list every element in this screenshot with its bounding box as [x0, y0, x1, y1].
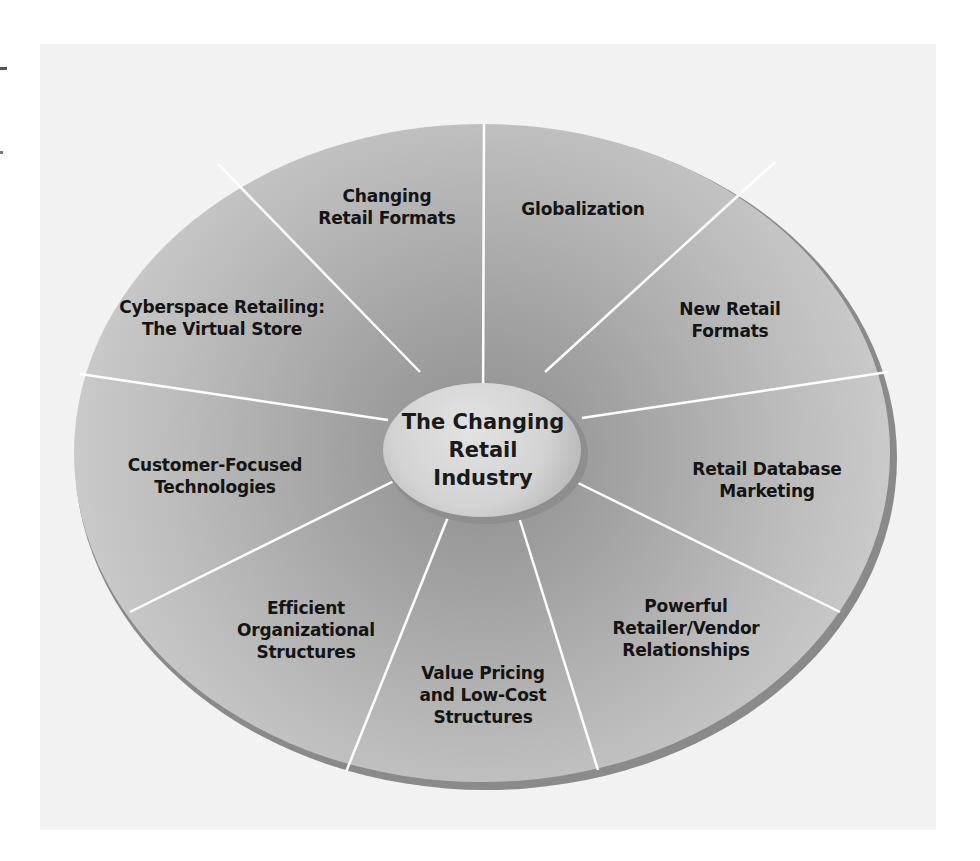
segment-customer-focused-technologies: Customer-Focused Technologies: [128, 454, 303, 498]
segment-changing-retail-formats: Changing Retail Formats: [318, 185, 455, 229]
center-title-line: Retail: [402, 436, 565, 464]
segment-label-line: New Retail: [679, 298, 780, 320]
segment-label-line: and Low-Cost: [420, 684, 547, 706]
segment-label-line: Technologies: [128, 476, 303, 498]
segment-label-line: Relationships: [612, 639, 759, 661]
segment-new-retail-formats: New Retail Formats: [679, 298, 780, 342]
segment-label-line: Globalization: [521, 198, 644, 220]
center-title: The Changing Retail Industry: [402, 408, 565, 492]
segment-powerful-retailer-vendor-relationships: Powerful Retailer/Vendor Relationships: [612, 595, 759, 661]
segment-value-pricing: Value Pricing and Low-Cost Structures: [420, 662, 547, 728]
segment-label-line: Retailer/Vendor: [612, 617, 759, 639]
center-title-line: Industry: [402, 464, 565, 492]
segment-label-line: Structures: [420, 706, 547, 728]
segment-retail-database-marketing: Retail Database Marketing: [692, 458, 841, 502]
segment-label-line: Retail Formats: [318, 207, 455, 229]
segment-cyberspace-retailing: Cyberspace Retailing: The Virtual Store: [119, 296, 325, 340]
segment-label-line: Efficient: [237, 597, 375, 619]
segment-label-line: Value Pricing: [420, 662, 547, 684]
segment-label-line: Formats: [679, 320, 780, 342]
segment-label-line: Organizational: [237, 619, 375, 641]
segment-efficient-organizational-structures: Efficient Organizational Structures: [237, 597, 375, 663]
segment-label-line: Powerful: [612, 595, 759, 617]
segment-label-line: Customer-Focused: [128, 454, 303, 476]
segment-label-line: Marketing: [692, 480, 841, 502]
segment-label-line: Cyberspace Retailing:: [119, 296, 325, 318]
segment-globalization: Globalization: [521, 198, 644, 220]
segment-label-line: Retail Database: [692, 458, 841, 480]
center-title-line: The Changing: [402, 408, 565, 436]
segment-label-line: The Virtual Store: [119, 318, 325, 340]
segment-label-line: Changing: [318, 185, 455, 207]
segment-label-line: Structures: [237, 641, 375, 663]
